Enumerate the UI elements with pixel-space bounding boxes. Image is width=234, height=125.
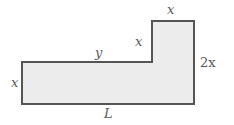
l-shaped-region-polygon [22,21,194,104]
dimension-label-top-width: x [167,3,174,16]
dimension-label-notch-height: x [135,35,142,48]
figure-canvas: x y x x 2x L [0,0,234,125]
dimension-label-top-arm-width: y [95,46,102,59]
dimension-label-right-height: 2x [200,56,216,69]
dimension-label-bottom-width: L [104,107,113,120]
l-shape-diagram [0,0,234,125]
dimension-label-left-height: x [11,76,18,89]
